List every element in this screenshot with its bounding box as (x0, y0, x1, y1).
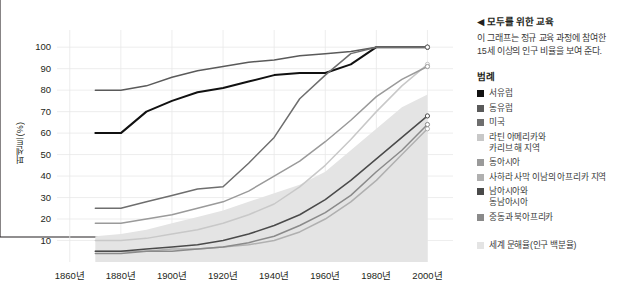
legend-item[interactable]: 동유럽 (477, 103, 615, 114)
y-axis-tick: 70 (40, 107, 51, 117)
legend-swatch-icon (477, 159, 484, 166)
y-axis-tick: 20 (40, 214, 51, 224)
legend-item-label: 동아시아 (489, 157, 520, 168)
legend-item[interactable]: 동아시아 (477, 157, 615, 168)
legend-item-label: 사하라 사막 이남의 아프리카 지역 (489, 172, 606, 183)
legend-list: 서유럽동유럽미국라틴 아메리카와 카리브 해 지역동아시아사하라 사막 이남의 … (477, 88, 615, 251)
y-axis-tick: 30 (40, 193, 51, 203)
legend-item[interactable]: 사하라 사막 이남의 아프리카 지역 (477, 172, 615, 183)
line-series-1 (95, 47, 427, 90)
legend-swatch-icon (477, 242, 484, 249)
x-axis-tick: 2000년 (412, 271, 442, 281)
legend-item[interactable]: 중동과 북아프리카 (477, 212, 615, 223)
y-axis-tick: 10 (40, 236, 51, 246)
plot-area: 102030405060708090100 1860년1880년1900년192… (57, 30, 453, 262)
line-series-0 (95, 47, 427, 133)
legend-swatch-icon (477, 105, 484, 112)
y-axis-tick: 50 (40, 150, 51, 160)
y-axis-tick: 80 (40, 85, 51, 95)
x-axis-tick: 1900년 (157, 271, 187, 281)
y-axis-tick: 60 (40, 128, 51, 138)
endpoint-marker-2 (425, 45, 429, 49)
endpoint-marker-7 (425, 122, 429, 126)
legend-swatch-icon (477, 214, 484, 221)
legend-swatch-icon (477, 90, 484, 97)
endpoint-marker-6 (425, 114, 429, 118)
legend-item[interactable]: 라틴 아메리카와 카리브 해 지역 (477, 132, 615, 154)
endpoint-marker-4 (425, 64, 429, 68)
legend-item-world-literacy[interactable]: 세계 문해율(인구 백분율) (477, 240, 615, 251)
legend-item[interactable]: 서유럽 (477, 88, 615, 99)
y-axis-tick: 100 (35, 42, 51, 52)
x-axis-tick: 1860년 (55, 271, 85, 281)
legend-item-label: 세계 문해율(인구 백분율) (489, 240, 576, 251)
side-panel: ◀ 모두를 위한 교육 이 그래프는 정규 교육 과정에 참여한 15세 이상의… (477, 16, 615, 254)
legend-swatch-icon (477, 119, 484, 126)
endpoint-marker-5 (425, 127, 429, 131)
chart-page: 퍼센트(%) 102030405060708090100 1860년1880년1… (0, 0, 619, 291)
legend-item[interactable]: 미국 (477, 117, 615, 128)
panel-description: 이 그래프는 정규 교육 과정에 참여한 15세 이상의 인구 비율을 보여 준… (477, 32, 615, 58)
data-series (57, 30, 453, 262)
legend-item-label: 서유럽 (489, 88, 512, 99)
legend-item-label: 라틴 아메리카와 카리브 해 지역 (489, 132, 545, 154)
legend-item-label: 동유럽 (489, 103, 512, 114)
x-axis-tick: 1880년 (106, 271, 136, 281)
x-axis-tick: 1960년 (310, 271, 340, 281)
x-axis-tick: 1940년 (259, 271, 289, 281)
panel-title: ◀ 모두를 위한 교육 (477, 16, 615, 28)
legend-title: 범례 (477, 69, 615, 83)
legend-item-label: 중동과 북아프리카 (489, 212, 553, 223)
legend-swatch-icon (477, 188, 484, 195)
y-axis-tick: 40 (40, 171, 51, 181)
y-axis-tick: 90 (40, 64, 51, 74)
legend-swatch-icon (477, 134, 484, 141)
legend-item-label: 미국 (489, 117, 505, 128)
legend-item-label: 남아시아와 동남아시아 (489, 186, 528, 208)
legend-item[interactable]: 남아시아와 동남아시아 (477, 186, 615, 208)
chart-panel: 퍼센트(%) 102030405060708090100 1860년1880년1… (0, 0, 470, 291)
legend-swatch-icon (477, 174, 484, 181)
x-axis-tick: 1980년 (361, 271, 391, 281)
x-axis-tick: 1920년 (208, 271, 238, 281)
